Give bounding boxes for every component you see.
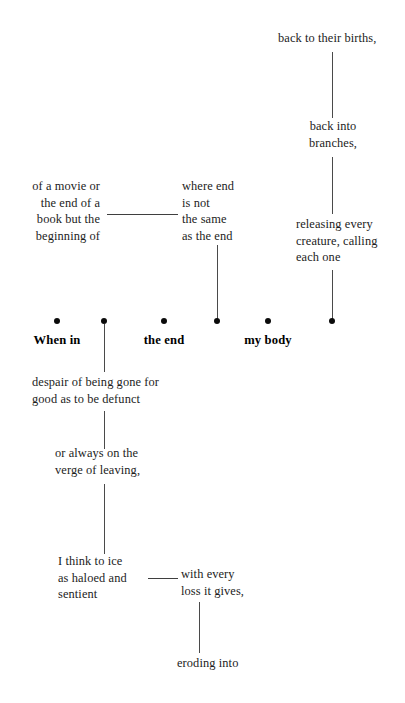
connector-releasing-to-anchor: [332, 270, 333, 322]
node-dot-my-body: [265, 318, 271, 324]
fragment-releasing-every-creature: releasing every creature, calling each o…: [296, 216, 400, 266]
node-dot-blank-2: [214, 318, 220, 324]
node-dot-when-in: [54, 318, 60, 324]
connector-births-to-branches: [332, 52, 333, 118]
anchor-label-my-body: my body: [232, 333, 304, 348]
fragment-despair-of-being-gone: despair of being gone for good as to be …: [32, 374, 208, 407]
fragment-eroding-into: eroding into: [177, 655, 287, 672]
fragment-where-end-is-not: where end is not the same as the end: [182, 178, 278, 244]
connector-withevery-to-eroding: [199, 602, 200, 653]
fragment-back-into-branches: back into branches,: [288, 118, 378, 151]
poem-diagram-canvas: back to their births, back into branches…: [0, 0, 405, 703]
node-dot-blank-3: [329, 318, 335, 324]
anchor-label-when-in: When in: [25, 333, 89, 348]
anchor-label-the-end: the end: [132, 333, 196, 348]
connector-despair-to-orelse: [104, 411, 105, 449]
connector-branches-to-releasing: [332, 157, 333, 214]
fragment-or-always-on-the-verge: or always on the verge of leaving,: [55, 445, 175, 478]
connector-ithink-to-withevery: [148, 578, 178, 579]
connector-anchor-to-despair: [104, 324, 105, 372]
connector-verge-to-ithink: [104, 484, 105, 554]
connector-movie-to-whereend: [107, 214, 178, 215]
fragment-with-every-loss: with every loss it gives,: [181, 566, 273, 599]
fragment-back-to-their-births: back to their births,: [278, 30, 398, 47]
node-dot-the-end: [161, 318, 167, 324]
connector-whereend-to-anchor: [217, 245, 218, 322]
fragment-of-a-movie: of a movie or the end of a book but the …: [8, 178, 100, 244]
